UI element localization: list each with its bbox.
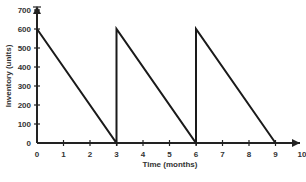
y-tick-label: 200 — [18, 101, 32, 110]
x-tick-label: 10 — [298, 150, 306, 159]
x-tick-label: 4 — [141, 150, 146, 159]
x-axis-arrow-icon — [292, 139, 300, 147]
inventory-series-line — [37, 29, 276, 143]
y-axis-title: Inventory (units) — [4, 44, 13, 107]
x-tick-label: 6 — [194, 150, 199, 159]
y-tick-label: 100 — [18, 120, 32, 129]
y-tick-label: 600 — [18, 25, 32, 34]
x-tick-label: 7 — [220, 150, 225, 159]
x-tick-label: 8 — [247, 150, 252, 159]
y-tick-label: 300 — [18, 82, 32, 91]
y-tick-label: 700 — [18, 6, 32, 15]
x-tick-label: 2 — [88, 150, 93, 159]
x-axis-title: Time (months) — [143, 160, 198, 169]
x-tick-label: 9 — [273, 150, 278, 159]
inventory-chart: 0100200300400500600700 012345678910 Time… — [0, 0, 306, 182]
x-tick-label: 3 — [114, 150, 119, 159]
x-tick-label: 5 — [167, 150, 172, 159]
y-tick-label: 0 — [27, 139, 32, 148]
x-tick-label: 0 — [35, 150, 40, 159]
y-tick-label: 400 — [18, 63, 32, 72]
y-tick-label: 500 — [18, 44, 32, 53]
x-tick-label: 1 — [61, 150, 66, 159]
